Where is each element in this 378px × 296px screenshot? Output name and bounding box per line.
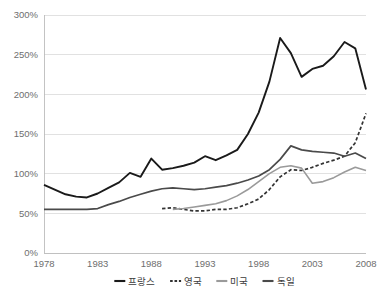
legend-label: 독일 (277, 276, 295, 287)
x-tick-label: 1993 (194, 258, 215, 269)
x-tick-label: 1983 (87, 258, 108, 269)
x-tick-label: 1988 (141, 258, 162, 269)
x-tick-label: 2003 (302, 258, 323, 269)
y-tick-label: 0% (24, 247, 38, 258)
x-tick-label: 1998 (248, 258, 269, 269)
legend-label: 영국 (184, 276, 202, 287)
chart-canvas: 0%50%100%150%200%250%300% 19781983198819… (0, 0, 378, 296)
y-tick-label: 150% (14, 128, 39, 139)
x-tick-label: 1978 (33, 258, 54, 269)
y-tick-label: 200% (14, 89, 39, 100)
y-tick-label: 100% (14, 168, 39, 179)
x-tick-label: 2008 (355, 258, 376, 269)
legend-label: 미국 (230, 276, 248, 287)
chart-background (0, 0, 378, 296)
legend-label: 프랑스 (128, 276, 155, 287)
y-tick-label: 50% (19, 208, 39, 219)
line-chart-figure: 0%50%100%150%200%250%300% 19781983198819… (0, 0, 378, 296)
y-tick-label: 300% (14, 9, 39, 20)
y-tick-label: 250% (14, 49, 39, 60)
